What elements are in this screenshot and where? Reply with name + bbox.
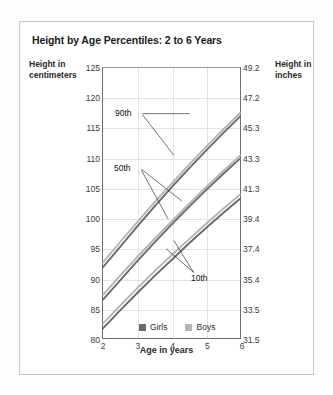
y-axis-tick-left: 95 bbox=[91, 244, 100, 254]
annotation-10th: 10th bbox=[191, 273, 208, 283]
x-axis-tick: 5 bbox=[205, 341, 210, 351]
legend-label-girls: Girls bbox=[150, 322, 167, 332]
y-axis-tick-left: 85 bbox=[91, 305, 100, 315]
y-axis-label-right: Height in inches bbox=[275, 59, 330, 81]
legend-swatch-boys-icon bbox=[185, 324, 192, 331]
y-axis-tick-right: 49.2 bbox=[243, 63, 260, 73]
y-axis-tick-left: 90 bbox=[91, 275, 100, 285]
y-axis-tick-left: 110 bbox=[86, 154, 100, 164]
y-axis-tick-right: 39.4 bbox=[243, 214, 260, 224]
x-axis-tick: 2 bbox=[101, 341, 106, 351]
y-axis-tick-right: 37.4 bbox=[243, 244, 260, 254]
y-axis-tick-left: 125 bbox=[86, 63, 100, 73]
page-title: Height by Age Percentiles: 2 to 6 Years bbox=[32, 34, 222, 46]
y-axis-tick-right: 43.3 bbox=[243, 154, 260, 164]
y-axis-tick-left: 80 bbox=[91, 335, 100, 345]
y-axis-tick-right: 45.3 bbox=[243, 123, 260, 133]
figure-frame: Height by Age Percentiles: 2 to 6 Years … bbox=[19, 21, 314, 375]
y-axis-tick-left: 100 bbox=[86, 214, 100, 224]
annotation-50th: 50th bbox=[114, 163, 131, 173]
page-background: Height by Age Percentiles: 2 to 6 Years … bbox=[0, 0, 333, 395]
x-axis-tick: 4 bbox=[170, 341, 175, 351]
y-axis-tick-right: 47.2 bbox=[243, 93, 260, 103]
legend-item-girls[interactable]: Girls bbox=[139, 322, 167, 332]
y-axis-tick-right: 41.3 bbox=[243, 184, 260, 194]
x-axis-tick: 3 bbox=[135, 341, 140, 351]
y-axis-tick-right: 35.4 bbox=[243, 275, 260, 285]
legend-swatch-girls-icon bbox=[139, 324, 146, 331]
y-axis-tick-left: 120 bbox=[86, 93, 100, 103]
x-axis-label: Age in years bbox=[20, 345, 313, 355]
y-axis-tick-left: 115 bbox=[86, 123, 100, 133]
legend-item-boys[interactable]: Boys bbox=[185, 322, 215, 332]
y-axis-tick-right: 31.5 bbox=[243, 335, 260, 345]
legend: Girls Boys bbox=[139, 322, 215, 332]
y-axis-tick-right: 33.5 bbox=[243, 305, 260, 315]
legend-label-boys: Boys bbox=[196, 322, 215, 332]
y-axis-tick-left: 105 bbox=[86, 184, 100, 194]
x-axis-tick: 6 bbox=[240, 341, 245, 351]
annotation-90th: 90th bbox=[115, 108, 132, 118]
plot-area: 80859095100105110115120125 31.533.535.43… bbox=[102, 67, 241, 339]
